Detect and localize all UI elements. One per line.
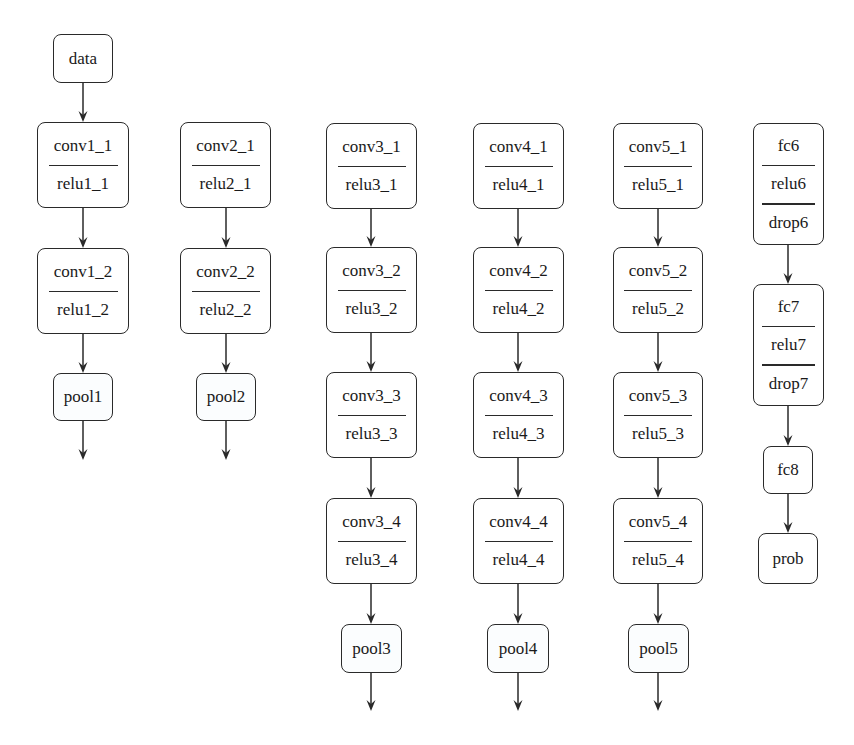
- layer-label: conv3_3: [342, 386, 401, 406]
- layer-node-conv5_4: conv5_4relu5_4: [613, 498, 703, 584]
- layer-label: drop7: [769, 374, 809, 394]
- layer-label: relu3_3: [346, 424, 398, 444]
- layer-divider: [485, 415, 553, 417]
- layer-label: prob: [772, 549, 803, 569]
- layer-node-conv3_4: conv3_4relu3_4: [326, 498, 417, 584]
- edges-layer: [0, 0, 854, 745]
- arrow-icon: [514, 209, 523, 247]
- arrow-icon: [79, 421, 88, 460]
- layer-label: relu3_2: [346, 299, 398, 319]
- layer-label: fc6: [778, 136, 800, 156]
- layer-divider: [624, 541, 692, 543]
- layer-label: conv1_2: [54, 262, 113, 282]
- layer-divider: [338, 166, 406, 168]
- layer-node-pool3: pool3: [341, 624, 402, 673]
- layer-label: relu5_3: [632, 424, 684, 444]
- layer-label: conv5_1: [629, 137, 688, 157]
- arrow-icon: [222, 421, 231, 460]
- layer-divider: [762, 326, 815, 328]
- layer-node-conv2_1: conv2_1relu2_1: [180, 122, 271, 208]
- layer-label: relu2_2: [200, 300, 252, 320]
- layer-node-conv3_2: conv3_2relu3_2: [326, 247, 417, 333]
- layer-label: relu4_3: [493, 424, 545, 444]
- layer-label: conv3_1: [342, 137, 401, 157]
- layer-label: relu4_2: [493, 299, 545, 319]
- layer-node-conv2_2: conv2_2relu2_2: [180, 248, 271, 334]
- vgg19-diagram: dataconv1_1relu1_1conv1_2relu1_2pool1con…: [0, 0, 854, 745]
- layer-divider: [49, 165, 118, 167]
- layer-label: relu2_1: [200, 174, 252, 194]
- layer-node-conv3_1: conv3_1relu3_1: [326, 123, 417, 209]
- layer-divider: [338, 541, 406, 543]
- arrow-icon: [367, 333, 376, 372]
- arrow-icon: [514, 673, 523, 711]
- layer-node-conv4_2: conv4_2relu4_2: [473, 247, 564, 333]
- layer-node-conv3_3: conv3_3relu3_3: [326, 372, 417, 458]
- layer-label: conv5_4: [629, 512, 688, 532]
- layer-node-conv4_4: conv4_4relu4_4: [473, 498, 564, 584]
- layer-divider: [762, 203, 815, 205]
- layer-label: relu6: [771, 174, 806, 194]
- layer-divider: [485, 290, 553, 292]
- layer-label: relu4_1: [493, 175, 545, 195]
- arrow-icon: [367, 209, 376, 247]
- layer-label: pool3: [352, 639, 391, 659]
- layer-node-conv5_2: conv5_2relu5_2: [613, 247, 703, 333]
- layer-label: conv1_1: [54, 136, 113, 156]
- arrow-icon: [367, 458, 376, 498]
- layer-node-fc8: fc8: [763, 446, 813, 494]
- arrow-icon: [222, 208, 231, 248]
- layer-label: relu3_1: [346, 175, 398, 195]
- layer-divider: [624, 415, 692, 417]
- arrow-icon: [514, 584, 523, 624]
- layer-label: conv5_3: [629, 386, 688, 406]
- layer-label: relu5_4: [632, 550, 684, 570]
- layer-label: data: [69, 49, 97, 69]
- layer-label: relu3_4: [346, 550, 398, 570]
- layer-divider: [192, 291, 260, 293]
- layer-label: relu1_1: [57, 174, 109, 194]
- layer-label: conv4_3: [489, 386, 548, 406]
- layer-label: pool5: [639, 639, 678, 659]
- layer-label: pool1: [64, 387, 103, 407]
- arrow-icon: [654, 584, 663, 624]
- layer-label: conv3_2: [342, 261, 401, 281]
- arrow-icon: [784, 406, 793, 446]
- arrow-icon: [654, 458, 663, 498]
- arrow-icon: [654, 209, 663, 247]
- arrow-icon: [514, 458, 523, 498]
- layer-divider: [192, 165, 260, 167]
- layer-node-prob: prob: [758, 533, 818, 584]
- arrow-icon: [654, 333, 663, 372]
- layer-node-pool1: pool1: [53, 373, 113, 421]
- layer-label: conv5_2: [629, 261, 688, 281]
- arrow-icon: [367, 584, 376, 624]
- layer-divider: [338, 290, 406, 292]
- layer-label: drop6: [769, 213, 809, 233]
- layer-node-conv5_1: conv5_1relu5_1: [613, 123, 703, 209]
- layer-node-fc7: fc7relu7drop7: [753, 284, 824, 406]
- layer-label: relu5_2: [632, 299, 684, 319]
- layer-node-pool4: pool4: [487, 624, 549, 673]
- layer-label: fc8: [777, 460, 799, 480]
- layer-divider: [485, 541, 553, 543]
- layer-divider: [485, 166, 553, 168]
- arrow-icon: [79, 208, 88, 248]
- layer-label: conv2_1: [196, 136, 255, 156]
- layer-divider: [338, 415, 406, 417]
- layer-label: conv4_2: [489, 261, 548, 281]
- arrow-icon: [514, 333, 523, 372]
- layer-label: conv2_2: [196, 262, 255, 282]
- layer-label: relu4_4: [493, 550, 545, 570]
- arrow-icon: [654, 673, 663, 711]
- arrow-icon: [367, 673, 376, 711]
- layer-divider: [762, 364, 815, 366]
- layer-node-conv1_2: conv1_2relu1_2: [37, 248, 129, 334]
- arrow-icon: [222, 334, 231, 373]
- layer-label: fc7: [778, 297, 800, 317]
- layer-node-conv5_3: conv5_3relu5_3: [613, 372, 703, 458]
- layer-label: pool2: [207, 387, 246, 407]
- layer-node-fc6: fc6relu6drop6: [753, 123, 824, 245]
- layer-label: conv4_4: [489, 512, 548, 532]
- arrow-icon: [79, 334, 88, 373]
